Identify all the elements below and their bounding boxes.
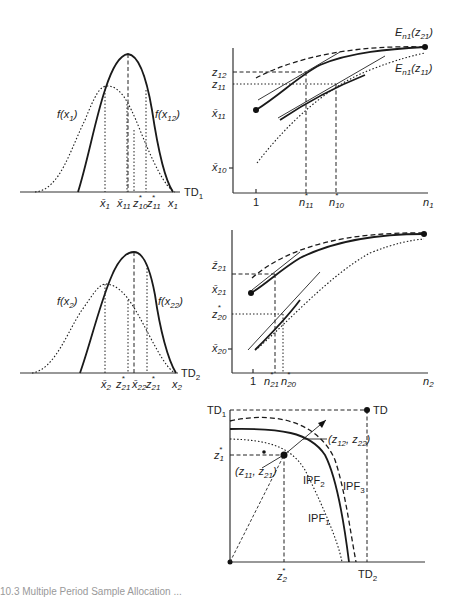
label-En1-z11: En1(z11): [395, 62, 433, 77]
panel-bottom-ipf: TD1 TD TD2 z1* z2* (z12, z22) (z11, z21)…: [207, 404, 425, 584]
svg-text:z20*: z20*: [211, 303, 227, 322]
label-En1-z21: En1(z21): [395, 26, 433, 41]
panel-mid-right-expectation: z̄21 x̄21 z20* x̄20 1 n21* n20* n2: [211, 230, 434, 389]
svg-text:1: 1: [253, 196, 259, 208]
x-tick-labels: x̄2 z21* x̄22 z21* x2: [100, 374, 183, 392]
label-f-x2: f(x2): [57, 295, 78, 310]
allocation-point: [281, 452, 288, 459]
svg-text:x̄1: x̄1: [99, 197, 110, 211]
label-f-x22: f(x22): [158, 295, 183, 310]
small-point: [262, 450, 266, 454]
curve-f-x22: [80, 252, 176, 373]
x-tick-labels: 1 n21* n20* n2: [250, 369, 434, 389]
svg-text:x̄21: x̄21: [211, 283, 226, 297]
svg-text:x2: x2: [171, 378, 183, 392]
curve-En2-lower: [255, 300, 300, 350]
svg-text:x̄22: x̄22: [131, 378, 147, 392]
svg-text:z21*: z21*: [115, 374, 130, 392]
svg-text:x̄2: x̄2: [100, 378, 112, 392]
label-ipf1: IPF1: [308, 512, 330, 527]
svg-text:z̄21: z̄21: [211, 259, 226, 273]
svg-text:n2: n2: [423, 375, 434, 389]
label-point-outer: (z12, z22): [328, 433, 371, 448]
label-td1: TD1: [207, 404, 227, 419]
svg-text:x̄11: x̄11: [211, 107, 226, 121]
label-td: TD: [373, 404, 388, 416]
svg-text:x̄20: x̄20: [211, 342, 227, 356]
label-ipf3: IPF3: [343, 480, 365, 495]
tangent-upper: [252, 252, 300, 290]
expansion-arrow: [284, 420, 326, 455]
pointer-inner: [262, 456, 282, 468]
svg-text:1: 1: [250, 375, 256, 387]
tangent-lower: [248, 272, 320, 350]
label-z2-star: z2*: [276, 566, 288, 584]
panel-top-right-expectation: z12 z11 x̄11 x̄10 1 n11* n10* n1 En1(z21…: [211, 26, 434, 210]
curve-upper-dashed: [252, 233, 424, 278]
svg-text:n1: n1: [423, 196, 434, 210]
svg-text:z10*: z10*: [132, 193, 148, 211]
x-tick-labels: 1 n11* n10* n1: [253, 189, 434, 210]
end-point: [422, 44, 428, 50]
start-point-upper: [253, 107, 259, 113]
panel-top-left-distributions: f(x1) f(x12) TD1 x̄1 x̄11 z10* z11* x1: [20, 54, 204, 211]
label-f-x1: f(x1): [57, 108, 78, 123]
svg-text:n10*: n10*: [329, 191, 345, 210]
tangent-lower: [278, 56, 385, 118]
svg-text:n11*: n11*: [299, 191, 313, 210]
label-td1: TD1: [184, 186, 204, 201]
y-tick-labels: z12 z11 x̄11 x̄10: [211, 66, 233, 175]
panel-mid-left-distributions: f(x2) f(x22) TD2 x̄2 z21* x̄22 z21* x2: [20, 252, 201, 392]
svg-text:z11: z11: [211, 78, 226, 92]
svg-text:x̄11: x̄11: [116, 197, 131, 211]
curve-En2-upper: [251, 234, 424, 293]
end-point: [421, 231, 427, 237]
label-f-x12: f(x12): [155, 108, 180, 123]
curve-En1-z21: [256, 47, 425, 110]
arrow-head-icon: [318, 420, 326, 428]
curve-En1-z11: [280, 75, 365, 120]
y-tick-labels: z̄21 x̄21 z20* x̄20: [211, 259, 232, 356]
frontier-ipf2: [230, 429, 349, 562]
svg-text:x1: x1: [167, 197, 178, 211]
svg-text:x̄10: x̄10: [211, 161, 227, 175]
svg-text:z21*: z21*: [145, 374, 160, 392]
curve-f-x12: [78, 54, 173, 192]
label-td2: TD2: [181, 367, 201, 382]
td-point: [364, 407, 370, 413]
svg-text:z11*: z11*: [146, 193, 161, 211]
label-z1-star: z1*: [213, 445, 224, 463]
label-point-inner: (z11, z21): [235, 465, 277, 480]
label-td2: TD2: [358, 568, 378, 583]
figure-caption: 10.3 Multiple Period Sample Allocation .…: [0, 586, 260, 598]
x-tick-labels: x̄1 x̄11 z10* z11* x1: [99, 193, 178, 211]
start-point-upper: [248, 290, 254, 296]
label-ipf2: IPF2: [303, 474, 325, 489]
